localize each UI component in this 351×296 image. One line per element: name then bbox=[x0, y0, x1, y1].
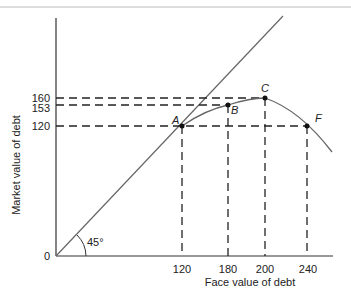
point-f bbox=[305, 124, 310, 129]
y-axis-label: Market value of debt bbox=[10, 115, 22, 215]
x-tick-120: 120 bbox=[173, 263, 191, 275]
point-label-b: B bbox=[231, 104, 238, 116]
x-tick-240: 240 bbox=[299, 263, 317, 275]
market-value-curve bbox=[182, 98, 332, 152]
x-tick-180: 180 bbox=[219, 263, 237, 275]
point-c bbox=[263, 96, 268, 101]
point-label-a: A bbox=[171, 114, 179, 126]
x-tick-200: 200 bbox=[256, 263, 274, 275]
y-tick-120: 120 bbox=[32, 120, 50, 132]
point-label-f: F bbox=[315, 112, 323, 124]
x-axis-label: Face value of debt bbox=[205, 276, 296, 288]
dashed-guides bbox=[56, 98, 307, 256]
point-a bbox=[180, 124, 185, 129]
point-b bbox=[226, 103, 231, 108]
point-label-c: C bbox=[261, 82, 269, 94]
45-degree-line bbox=[56, 16, 283, 256]
debt-diagram: A B C F 160 153 120 0 120 180 200 240 Fa… bbox=[0, 0, 351, 296]
angle-label: 45° bbox=[87, 236, 104, 248]
angle-arc bbox=[77, 235, 86, 256]
origin-label: 0 bbox=[44, 250, 50, 262]
y-tick-153: 153 bbox=[32, 102, 50, 114]
